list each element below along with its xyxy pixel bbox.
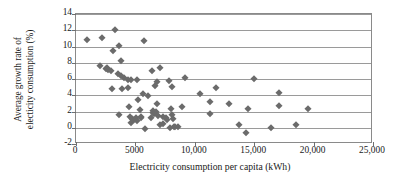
- data-point: [250, 75, 258, 83]
- data-point: [133, 76, 141, 84]
- y-axis-title: Average growth rate of electicity consum…: [0, 0, 50, 158]
- data-point: [236, 121, 244, 129]
- data-point: [111, 26, 119, 34]
- data-point: [206, 111, 214, 119]
- x-tick-label: 20,000: [300, 145, 326, 156]
- data-point: [206, 98, 214, 106]
- data-point: [126, 104, 134, 112]
- data-point: [117, 57, 125, 65]
- data-point: [124, 85, 132, 93]
- data-point: [225, 100, 233, 108]
- y-tick-label: 12: [46, 25, 72, 34]
- x-tick-label: 5000: [125, 145, 144, 156]
- data-point: [178, 103, 186, 111]
- data-point: [268, 124, 276, 132]
- data-point: [115, 42, 123, 50]
- data-point: [142, 125, 150, 133]
- y-axis-title-line2: electicity consumption (%): [25, 29, 37, 128]
- x-tick-label: 10,000: [181, 145, 207, 156]
- data-point: [108, 85, 116, 93]
- data-point: [170, 115, 178, 123]
- y-tick-label: 10: [46, 41, 72, 50]
- y-tick-label: 0: [46, 122, 72, 131]
- data-point: [153, 100, 161, 108]
- data-point: [98, 35, 106, 43]
- data-point: [243, 130, 251, 138]
- data-point: [116, 111, 124, 119]
- plot-area: [75, 13, 372, 143]
- data-point: [168, 83, 176, 91]
- x-tick-label: 25,000: [359, 145, 385, 156]
- data-point: [275, 89, 283, 97]
- x-tick-label: 0: [73, 145, 78, 156]
- data-point: [244, 105, 252, 113]
- y-axis-title-line1: Average growth rate of: [14, 29, 26, 128]
- data-point: [196, 91, 204, 99]
- data-point: [135, 96, 143, 104]
- data-point: [140, 37, 148, 45]
- data-point: [275, 102, 283, 110]
- data-point: [292, 121, 300, 129]
- x-axis-tick-labels: 0500010,00015,00020,00025,000: [0, 145, 394, 161]
- data-point: [304, 105, 312, 113]
- data-points: [76, 14, 371, 142]
- data-point: [181, 74, 189, 82]
- data-point: [83, 36, 91, 44]
- data-point: [110, 47, 118, 55]
- scatter-chart-figure: Average growth rate of electicity consum…: [0, 0, 394, 185]
- y-tick-label: 8: [46, 57, 72, 66]
- y-tick-label: 4: [46, 90, 72, 99]
- x-tick-label: 15,000: [240, 145, 266, 156]
- data-point: [212, 84, 220, 92]
- x-axis-title: Electricity consumption per capita (kWh): [0, 161, 394, 173]
- y-tick-label: 2: [46, 106, 72, 115]
- data-point: [157, 64, 165, 72]
- y-tick-label: 6: [46, 73, 72, 82]
- data-point: [148, 67, 156, 75]
- y-tick-label: 14: [46, 8, 72, 17]
